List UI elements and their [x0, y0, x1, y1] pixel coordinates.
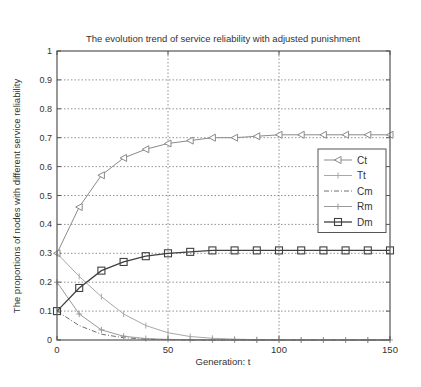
y-tick-label: 0.1	[39, 306, 52, 316]
series-cm	[57, 311, 390, 340]
x-tick-label: 100	[271, 344, 287, 355]
y-tick-label: 0.8	[39, 104, 52, 114]
y-tick-label: 0.5	[39, 191, 52, 201]
y-axis-label: The proportions of nodes with different …	[11, 79, 22, 314]
x-tick-label: 50	[163, 344, 174, 355]
chart: The evolution trend of service reliabili…	[0, 0, 421, 387]
y-tick-label: 0.9	[39, 75, 52, 85]
legend-label: Tt	[357, 170, 366, 181]
y-tick-label: 0.6	[39, 162, 52, 172]
x-axis-label: Generation: t	[196, 356, 251, 367]
series-tt	[57, 250, 390, 343]
legend-label: Rm	[357, 201, 373, 212]
legend-label: Cm	[357, 186, 373, 197]
series-dm	[54, 247, 394, 315]
x-tick-label: 0	[54, 344, 59, 355]
legend-label: Dm	[357, 217, 373, 228]
y-tick-label: 1	[47, 46, 52, 56]
series-rm	[54, 279, 393, 343]
y-tick-label: 0.7	[39, 133, 52, 143]
legend: CtTtCmRmDm	[318, 149, 386, 233]
x-tick-label: 150	[382, 344, 398, 355]
y-tick-label: 0.3	[39, 248, 52, 258]
legend-label: Ct	[357, 155, 367, 166]
y-tick-label: 0.2	[39, 277, 52, 287]
chart-title: The evolution trend of service reliabili…	[86, 33, 360, 44]
y-tick-label: 0	[47, 335, 52, 345]
y-tick-label: 0.4	[39, 219, 52, 229]
